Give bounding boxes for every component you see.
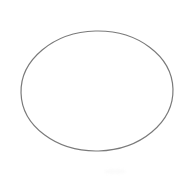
ellipse-figure [0, 0, 183, 178]
figure-canvas [0, 0, 183, 178]
